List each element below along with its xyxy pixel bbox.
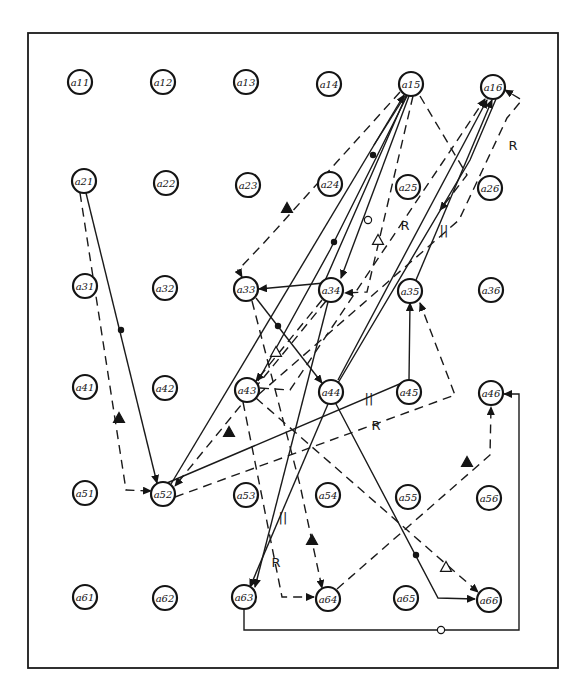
edge-label: ||	[365, 391, 374, 406]
graph-diagram: RR||||||RR a11a12a13a14a15a16a21a22a23a2…	[0, 0, 579, 692]
edge-label: R	[400, 218, 409, 233]
node-a33: a33	[234, 277, 258, 301]
node-a36: a36	[479, 278, 503, 302]
node-a24: a24	[318, 172, 342, 196]
node-a15: a15	[399, 72, 423, 96]
node-label: a65	[397, 593, 416, 604]
node-a62: a62	[153, 586, 177, 610]
edges-layer	[80, 90, 522, 630]
node-a12: a12	[151, 70, 175, 94]
node-a53: a53	[234, 483, 258, 507]
node-label: a35	[401, 286, 420, 297]
filled-dot-marker-icon	[413, 552, 419, 558]
node-label: a32	[156, 283, 175, 294]
node-a14: a14	[317, 72, 341, 96]
filled-triangle-marker-icon	[282, 203, 293, 213]
node-label: a41	[76, 382, 95, 393]
edge-a34-to-a15	[420, 96, 467, 210]
edge-a44-to-a16	[338, 100, 487, 380]
node-label: a56	[480, 493, 499, 504]
node-a63: a63	[232, 585, 256, 609]
diagram-frame	[28, 33, 558, 668]
node-a13: a13	[234, 70, 258, 94]
edge-label: R	[371, 418, 380, 433]
node-a35: a35	[398, 279, 422, 303]
node-a64: a64	[316, 587, 340, 611]
node-label: a44	[322, 387, 341, 398]
node-label: a33	[237, 284, 256, 295]
node-label: a46	[482, 388, 501, 399]
node-a61: a61	[73, 585, 97, 609]
node-a55: a55	[396, 485, 420, 509]
node-a46: a46	[479, 381, 503, 405]
node-label: a52	[154, 489, 173, 500]
node-label: a31	[76, 281, 95, 292]
node-a56: a56	[477, 486, 501, 510]
node-label: a25	[399, 182, 418, 193]
node-label: a11	[71, 77, 90, 88]
node-label: a55	[399, 492, 418, 503]
filled-dot-marker-icon	[370, 152, 376, 158]
node-label: a15	[402, 79, 421, 90]
node-label: a51	[76, 488, 95, 499]
edge-a34-to-a43	[256, 300, 322, 381]
filled-triangle-marker-icon	[307, 535, 318, 545]
node-a22: a22	[154, 171, 178, 195]
node-a34: a34	[319, 278, 343, 302]
node-a54: a54	[316, 483, 340, 507]
node-label: a45	[400, 387, 419, 398]
node-a25: a25	[396, 175, 420, 199]
hollow-triangle-marker-icon	[373, 235, 384, 245]
node-a51: a51	[73, 481, 97, 505]
filled-dot-marker-icon	[118, 327, 124, 333]
edge-label: ||	[440, 223, 449, 238]
node-label: a13	[237, 77, 256, 88]
node-label: a26	[481, 183, 500, 194]
edge-label: R	[271, 555, 280, 570]
node-a42: a42	[153, 376, 177, 400]
node-a44: a44	[319, 380, 343, 404]
node-label: a66	[480, 595, 499, 606]
node-label: a36	[482, 285, 501, 296]
node-a26: a26	[478, 176, 502, 200]
node-a16: a16	[481, 75, 505, 99]
edge-a21-to-a52	[86, 193, 157, 483]
node-a21: a21	[72, 169, 96, 193]
nodes-layer: a11a12a13a14a15a16a21a22a23a24a25a26a31a…	[68, 70, 505, 612]
node-label: a14	[320, 79, 339, 90]
node-label: a53	[237, 490, 256, 501]
node-label: a34	[322, 285, 341, 296]
edge-a21-to-a52	[80, 193, 151, 491]
node-label: a42	[156, 383, 175, 394]
filled-dot-marker-icon	[275, 323, 281, 329]
filled-triangle-marker-icon	[462, 457, 473, 467]
node-label: a16	[484, 82, 503, 93]
node-label: a43	[238, 385, 257, 396]
edge-a15-to-a43	[258, 96, 407, 381]
node-a32: a32	[153, 276, 177, 300]
node-a31: a31	[73, 274, 97, 298]
node-label: a61	[76, 592, 95, 603]
node-a43: a43	[235, 378, 259, 402]
node-label: a24	[321, 179, 340, 190]
filled-dot-marker-icon	[331, 239, 337, 245]
node-label: a64	[319, 594, 338, 605]
edge-a43-to-a16	[258, 90, 522, 395]
node-label: a23	[239, 180, 258, 191]
node-a45: a45	[397, 380, 421, 404]
filled-triangle-marker-icon	[224, 427, 235, 437]
node-a65: a65	[394, 586, 418, 610]
node-label: a12	[154, 77, 173, 88]
node-label: a21	[75, 176, 94, 187]
edge-label: ||	[279, 510, 288, 525]
edge-a44-to-a16	[338, 99, 496, 383]
hollow-ring-marker-icon	[364, 216, 371, 223]
hollow-triangle-marker-icon	[441, 562, 452, 572]
node-a11: a11	[68, 70, 92, 94]
node-a23: a23	[236, 173, 260, 197]
node-a41: a41	[73, 375, 97, 399]
node-label: a62	[156, 593, 175, 604]
node-a52: a52	[151, 482, 175, 506]
node-a66: a66	[477, 588, 501, 612]
node-label: a22	[157, 178, 176, 189]
